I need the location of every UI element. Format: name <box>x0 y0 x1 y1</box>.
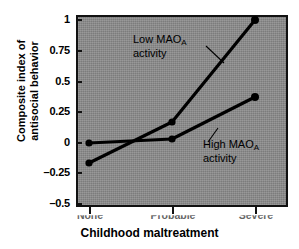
leader-line-low-maoa <box>206 46 224 63</box>
annotation-low-maoa-main: Low MAO <box>133 33 181 45</box>
series-dot-low-maoa-none <box>85 159 92 166</box>
annotation-low-maoa-line1: Low MAOA <box>133 33 187 47</box>
annotation-high-maoa-main: High MAO <box>203 138 254 150</box>
annotation-low-maoa: Low MAOA activity <box>133 33 187 60</box>
annotation-high-maoa-subscript: A <box>254 143 259 152</box>
series-dot-high-maoa-probable <box>168 135 175 142</box>
figure-chart: 1 0.75 0.5 0.25 0 –0.25 –0.5 Composite i… <box>0 0 299 249</box>
series-dot-high-maoa-severe <box>251 93 259 101</box>
annotation-high-maoa-line2: activity <box>203 152 259 165</box>
annotation-low-maoa-subscript: A <box>181 38 186 47</box>
annotation-low-maoa-line2: activity <box>133 47 187 60</box>
series-dot-low-maoa-probable <box>168 118 175 125</box>
series-dot-low-maoa-severe <box>251 16 259 24</box>
annotation-high-maoa: High MAOA activity <box>203 138 259 165</box>
series-dot-high-maoa-none <box>85 139 92 146</box>
annotation-high-maoa-line1: High MAOA <box>203 138 259 152</box>
